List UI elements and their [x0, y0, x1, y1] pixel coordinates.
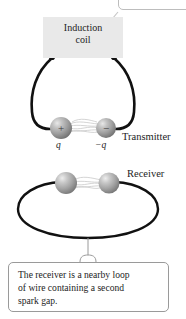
negative-sign-glyph: −: [96, 118, 116, 138]
positive-sign-glyph: +: [50, 117, 72, 139]
receiver-loop: [18, 182, 158, 238]
transmitter-spark-gap: [70, 119, 98, 132]
induction-coil-label-line2: coil: [43, 34, 123, 46]
positive-charge-label: q: [56, 140, 61, 150]
induction-coil-label: Induction coil: [43, 22, 123, 45]
hertz-apparatus-figure: Induction coil + − q −q Transmitter Rece…: [0, 0, 186, 319]
positive-charge-sphere: +: [50, 117, 72, 139]
caption-line-1: The receiver is a nearby loop: [18, 268, 161, 281]
receiver-spark-gap: [74, 177, 101, 188]
negative-charge-sphere: −: [96, 118, 116, 138]
negative-charge-label: −q: [95, 140, 106, 150]
transmitter-label: Transmitter: [122, 131, 171, 142]
receiver-sphere-right: [99, 173, 120, 194]
caption-box: The receiver is a nearby loop of wire co…: [8, 262, 169, 312]
transmitter-wire: [32, 58, 135, 129]
receiver-sphere-left: [55, 172, 77, 194]
top-callout-box: [118, 0, 186, 10]
receiver-label: Receiver: [127, 168, 164, 179]
induction-coil-label-line1: Induction: [43, 22, 123, 34]
caption-leader-line: [80, 238, 96, 262]
caption-line-2: of wire containing a second: [18, 281, 161, 294]
caption-line-3: spark gap.: [18, 294, 161, 307]
